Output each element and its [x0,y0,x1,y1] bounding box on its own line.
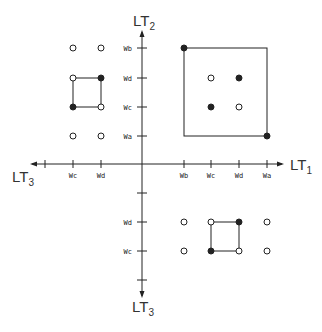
arrow-left-icon [30,162,37,167]
filled-point-icon [236,75,242,81]
open-point-icon [98,133,104,139]
open-point-icon [264,219,270,225]
y-tick-label: Wc [124,104,132,112]
arrow-right-icon [277,162,284,167]
upper-left-box [73,78,101,107]
open-point-icon [70,133,76,139]
axis-label-lt3-bottom: LT3 [132,298,154,318]
y-tick-label: Wa [124,133,132,141]
open-point-icon [236,104,242,110]
open-point-icon [98,104,104,110]
lower-right-box [211,222,239,251]
y-tick-label: Wc [124,248,132,256]
points [70,45,270,254]
x-tick-label: Wa [263,172,271,180]
y-tick-label: Wd [124,219,132,227]
open-point-icon [181,248,187,254]
open-point-icon [208,219,214,225]
arrow-down-icon [140,291,145,298]
open-point-icon [181,219,187,225]
arrow-up-icon [140,30,145,37]
open-point-icon [208,75,214,81]
upper-right-box [184,48,267,136]
x-tick-label: Wc [69,172,77,180]
x-tick-label: Wc [207,172,215,180]
x-tick-label: Wd [97,172,105,180]
filled-point-icon [98,75,104,81]
open-point-icon [264,248,270,254]
axis-label-lt2: LT2 [133,12,155,32]
y-tick-label: Wd [124,75,132,83]
lattice-diagram: LT1 LT3 LT2 LT3 WcWdWbWcWdWaWbWdWcWaWdWc [0,0,322,332]
filled-point-icon [208,248,214,254]
axes [32,32,282,296]
filled-point-icon [181,45,187,51]
open-point-icon [236,248,242,254]
open-point-icon [70,45,76,51]
open-point-icon [70,75,76,81]
filled-point-icon [236,219,242,225]
axis-label-lt1: LT1 [290,156,312,176]
x-tick-label: Wd [235,172,243,180]
open-point-icon [98,45,104,51]
axis-label-lt3-left: LT3 [12,168,34,188]
filled-point-icon [70,104,76,110]
filled-point-icon [208,104,214,110]
filled-point-icon [264,133,270,139]
x-tick-label: Wb [180,172,188,180]
y-tick-label: Wb [124,45,132,53]
